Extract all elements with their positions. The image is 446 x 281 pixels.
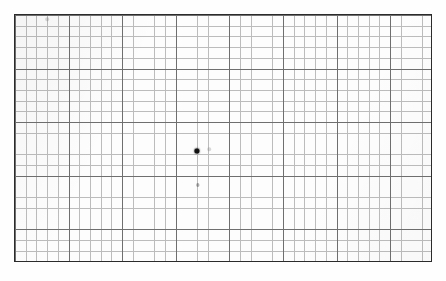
graph-paper-sheet <box>14 14 432 262</box>
screenshot-canvas <box>0 0 446 281</box>
paper-tint-overlay <box>15 15 431 261</box>
paper-faint-speck <box>45 17 49 21</box>
paper-smudge <box>196 183 199 187</box>
data-point-marker <box>194 148 199 153</box>
paper-faint-speck <box>207 147 211 151</box>
minor-gridlines <box>15 15 431 261</box>
major-gridlines <box>15 15 431 261</box>
